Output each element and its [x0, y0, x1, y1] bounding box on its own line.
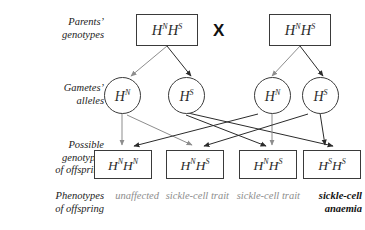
- parent-genotype-box-1: HNHS: [136, 14, 198, 46]
- offspring-genotype-4-allele: HSHS: [318, 156, 346, 174]
- offspring-genotype-box-1: HNHN: [94, 150, 152, 179]
- offspring-genotype-box-2: HNHS: [166, 150, 224, 179]
- parent-genotype-1-allele: HNHS: [152, 21, 182, 39]
- row-label-phenotypes-line2: of offspring: [8, 203, 104, 216]
- arrow-gamete4-to-offspring2: [204, 114, 308, 146]
- parent-genotype-2-allele: HNHS: [285, 21, 315, 39]
- row-label-genotypes-line1: Possible: [8, 139, 104, 152]
- gamete-1-allele: HN: [115, 87, 130, 105]
- arrow-parent2-to-gamete3: [272, 46, 300, 76]
- offspring-genotype-3-allele: HNHS: [254, 156, 283, 174]
- arrow-gamete1-to-offspring2: [127, 115, 192, 145]
- arrow-parent2-to-gamete4: [300, 46, 323, 76]
- row-label-parents-line1: Parents’: [8, 16, 104, 29]
- row-label-parents-line2: genotypes: [8, 29, 104, 42]
- gamete-3-allele: HN: [265, 87, 280, 105]
- parent-genotype-box-2: HNHS: [269, 14, 331, 46]
- gamete-2-allele: HS: [179, 87, 193, 105]
- row-label-genotypes-line2: genotypes: [8, 152, 104, 165]
- row-label-genotypes: Possible genotypes of offspring: [8, 139, 104, 177]
- offspring-genotype-box-4: HSHS: [303, 150, 361, 179]
- row-label-gametes-line2: alleles: [8, 95, 104, 108]
- gamete-4-allele: HS: [313, 87, 327, 105]
- row-label-parents: Parents’ genotypes: [8, 16, 104, 41]
- arrow-parent1-to-gamete1: [131, 46, 167, 76]
- offspring-genotype-box-3: HNHS: [239, 150, 297, 179]
- gamete-circle-1: HN: [104, 77, 141, 114]
- inheritance-diagram: Parents’ genotypes Gametes’ alleles Poss…: [0, 0, 365, 230]
- offspring-phenotype-4: sickle-cell anaemia: [290, 190, 362, 215]
- row-label-gametes-line1: Gametes’: [8, 82, 104, 95]
- cross-symbol: X: [213, 21, 224, 41]
- gamete-circle-3: HN: [254, 77, 291, 114]
- offspring-genotype-1-allele: HNHN: [108, 156, 138, 174]
- arrow-parent1-to-gamete2: [167, 46, 191, 76]
- row-label-gametes: Gametes’ alleles: [8, 82, 104, 107]
- offspring-phenotype-1: unaffected: [87, 190, 159, 203]
- offspring-genotype-2-allele: HNHS: [181, 156, 210, 174]
- gamete-circle-2: HS: [168, 77, 205, 114]
- arrow-gamete4-to-offspring4: [320, 113, 325, 145]
- offspring-phenotype-2: sickle-cell trait: [157, 190, 229, 203]
- arrow-gamete2-to-offspring4: [188, 113, 333, 146]
- row-label-genotypes-line3: of offspring: [8, 164, 104, 177]
- gamete-circle-4: HS: [302, 77, 339, 114]
